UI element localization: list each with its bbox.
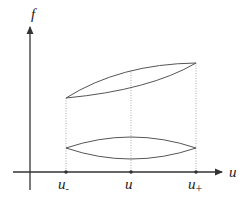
tick-label-u-minus: u-	[58, 176, 69, 194]
diagram-canvas: f u u- u u+	[0, 0, 252, 200]
tick-label-u-mid: u	[125, 176, 133, 192]
tick-label-u-plus: u+	[188, 176, 203, 196]
tick-dot-u-mid	[129, 170, 133, 174]
y-axis-label: f	[31, 6, 37, 22]
x-axis-label: u	[229, 164, 237, 180]
tick-dot-u-plus	[194, 170, 198, 174]
tick-dot-u-minus	[64, 170, 68, 174]
